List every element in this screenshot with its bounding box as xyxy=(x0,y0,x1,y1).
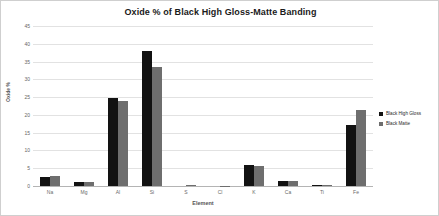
legend-item[interactable]: Black Matte xyxy=(379,121,439,126)
y-axis-tick-label: 25 xyxy=(8,94,30,100)
x-axis-tick-label: Cl xyxy=(203,189,237,195)
bar[interactable] xyxy=(186,185,196,186)
category-group: Fe xyxy=(339,26,373,186)
y-axis-tick-label: 30 xyxy=(8,76,30,82)
category-group: S xyxy=(169,26,203,186)
category-group: Na xyxy=(33,26,67,186)
x-axis-tick-label: Fe xyxy=(339,189,373,195)
y-axis-tick-label: 5 xyxy=(8,165,30,171)
legend-swatch-icon xyxy=(379,112,383,116)
bar[interactable] xyxy=(50,176,60,186)
legend-item[interactable]: Black High Gloss xyxy=(379,111,439,116)
bar-group xyxy=(135,26,169,186)
legend-swatch-icon xyxy=(379,122,383,126)
bar[interactable] xyxy=(74,182,84,186)
x-axis-tick-label: K xyxy=(237,189,271,195)
legend-label: Black Matte xyxy=(386,121,410,126)
bar-group xyxy=(203,26,237,186)
y-axis-tick-label: 0 xyxy=(8,183,30,189)
x-axis-tick-label: Al xyxy=(101,189,135,195)
bar[interactable] xyxy=(152,67,162,186)
category-group: Ca xyxy=(271,26,305,186)
x-axis-line xyxy=(33,186,373,187)
chart-title: Oxide % of Black High Gloss-Matte Bandin… xyxy=(1,7,439,17)
bar[interactable] xyxy=(118,101,128,186)
bar[interactable] xyxy=(322,185,332,186)
x-axis-tick-label: Ca xyxy=(271,189,305,195)
bar[interactable] xyxy=(244,165,254,186)
bar-group xyxy=(305,26,339,186)
bar-group xyxy=(101,26,135,186)
chart-container: Oxide % of Black High Gloss-Matte Bandin… xyxy=(0,0,439,216)
category-group: Mg xyxy=(67,26,101,186)
y-axis-tick-label: 10 xyxy=(8,147,30,153)
category-group: K xyxy=(237,26,271,186)
x-axis-tick-label: Ti xyxy=(305,189,339,195)
bar[interactable] xyxy=(278,181,288,186)
bar-group xyxy=(67,26,101,186)
chart-legend: Black High GlossBlack Matte xyxy=(379,111,439,131)
bar-group xyxy=(237,26,271,186)
x-axis-tick-label: S xyxy=(169,189,203,195)
y-axis-tick-label: 20 xyxy=(8,112,30,118)
bar[interactable] xyxy=(346,125,356,187)
category-group: Cl xyxy=(203,26,237,186)
bar[interactable] xyxy=(288,181,298,186)
x-axis-tick-label: Si xyxy=(135,189,169,195)
bar[interactable] xyxy=(40,177,50,186)
y-axis-tick-label: 35 xyxy=(8,59,30,65)
y-axis-tick-label: 15 xyxy=(8,130,30,136)
category-group: Ti xyxy=(305,26,339,186)
bar[interactable] xyxy=(142,51,152,186)
plot-area: NaMgAlSiSClKCaTiFe xyxy=(33,26,373,186)
x-axis-tick-label: Na xyxy=(33,189,67,195)
legend-label: Black High Gloss xyxy=(386,111,421,116)
bar[interactable] xyxy=(312,185,322,186)
bar[interactable] xyxy=(254,166,264,186)
y-axis-tick-label: 45 xyxy=(8,23,30,29)
bar[interactable] xyxy=(84,182,94,186)
bar[interactable] xyxy=(108,98,118,186)
bar-group xyxy=(33,26,67,186)
category-group: Si xyxy=(135,26,169,186)
bar-group xyxy=(339,26,373,186)
y-axis-tick-labels: 454035302520151050 xyxy=(5,26,30,186)
bar[interactable] xyxy=(356,110,366,186)
bar-group xyxy=(271,26,305,186)
bar-group xyxy=(169,26,203,186)
x-axis-tick-label: Mg xyxy=(67,189,101,195)
y-axis-tick-label: 40 xyxy=(8,41,30,47)
category-group: Al xyxy=(101,26,135,186)
x-axis-title: Element xyxy=(33,200,373,206)
